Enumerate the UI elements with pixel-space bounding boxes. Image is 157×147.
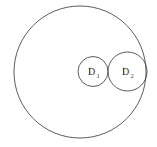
label-d1-letter: D — [88, 66, 95, 77]
label-d1-group: D 1 — [88, 66, 100, 79]
label-d2-letter: D — [122, 66, 129, 77]
label-d1-subscript: 1 — [97, 72, 100, 79]
circles-diagram: D 1 D 2 — [0, 0, 157, 147]
diagram-canvas: D 1 D 2 — [0, 0, 157, 147]
label-d2-group: D 2 — [122, 66, 134, 79]
label-d2-subscript: 2 — [131, 72, 134, 79]
